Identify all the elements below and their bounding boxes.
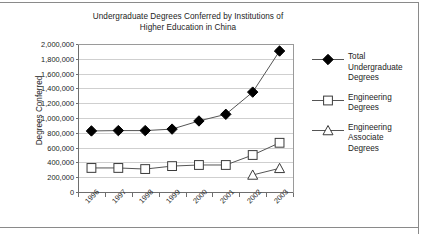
page-border-bottom [0, 227, 419, 228]
legend-label: Engineering Degrees [348, 93, 416, 114]
data-point-marker-square [248, 151, 257, 160]
chart-title-line-1: Undergraduate Degrees Conferred by Insti… [48, 11, 328, 22]
y-tick-label: 800,000 [22, 128, 74, 137]
y-tick-label: 2,000,000 [22, 40, 74, 49]
data-point-marker-diamond [194, 116, 204, 126]
series-group-1 [87, 138, 284, 173]
data-point-marker-diamond [167, 124, 177, 134]
legend-item[interactable]: Engineering Degrees [312, 93, 416, 114]
data-point-marker-diamond [140, 125, 150, 135]
x-axis-tick-labels: 19961997199819992000200120022003 [78, 193, 294, 227]
legend-item[interactable]: Total Undergraduate Degrees [312, 52, 416, 84]
y-tick-label: 1,200,000 [22, 99, 74, 108]
x-tick-mark [212, 193, 213, 197]
data-point-marker-triangle [275, 163, 285, 172]
legend-item[interactable]: Engineering Associate Degrees [312, 123, 416, 155]
x-tick-mark [132, 193, 133, 197]
data-series-layer [78, 44, 294, 193]
y-tick-label: 0 [22, 188, 74, 197]
y-tick-label: 1,400,000 [22, 84, 74, 93]
data-point-marker-diamond [113, 125, 123, 135]
y-tick-label: 600,000 [22, 143, 74, 152]
data-point-marker-square [87, 164, 96, 173]
data-point-marker-square [168, 162, 177, 171]
series-group-0 [86, 46, 285, 136]
y-tick-label: 1,800,000 [22, 54, 74, 63]
data-point-marker-diamond [323, 54, 333, 64]
legend-marker-icon [312, 93, 344, 106]
data-point-marker-diamond [86, 126, 96, 136]
x-tick-mark [266, 193, 267, 197]
chart-title-line-2: Higher Education in China [48, 22, 328, 33]
data-point-marker-square [195, 161, 204, 170]
y-tick-label: 200,000 [22, 173, 74, 182]
data-point-marker-square [221, 161, 230, 170]
legend-label: Engineering Associate Degrees [348, 123, 416, 155]
x-tick-mark [105, 193, 106, 197]
y-tick-label: 1,000,000 [22, 114, 74, 123]
data-point-marker-square [324, 96, 333, 105]
x-tick-mark [186, 193, 187, 197]
x-tick-mark [78, 193, 79, 197]
page-border-right [418, 2, 419, 234]
x-tick-mark [239, 193, 240, 197]
legend-marker-icon [312, 52, 344, 65]
y-axis-tick-labels: 0200,000400,000600,000800,0001,000,0001,… [20, 44, 74, 192]
series-group-2 [248, 163, 285, 179]
x-tick-mark [293, 193, 294, 197]
chart-title: Undergraduate Degrees Conferred by Insti… [48, 11, 328, 33]
y-tick-label: 1,600,000 [22, 69, 74, 78]
chart-figure: Undergraduate Degrees Conferred by Insti… [0, 0, 418, 227]
data-point-marker-diamond [274, 46, 284, 56]
data-point-marker-square [141, 165, 150, 174]
x-tick-mark [159, 193, 160, 197]
legend-label: Total Undergraduate Degrees [348, 52, 416, 84]
y-tick-label: 400,000 [22, 158, 74, 167]
data-point-marker-square [114, 164, 123, 173]
chart-page: Undergraduate Degrees Conferred by Insti… [0, 0, 430, 234]
data-point-marker-square [275, 138, 284, 147]
legend-marker-icon [312, 123, 344, 136]
chart-legend: Total Undergraduate DegreesEngineering D… [312, 52, 416, 163]
